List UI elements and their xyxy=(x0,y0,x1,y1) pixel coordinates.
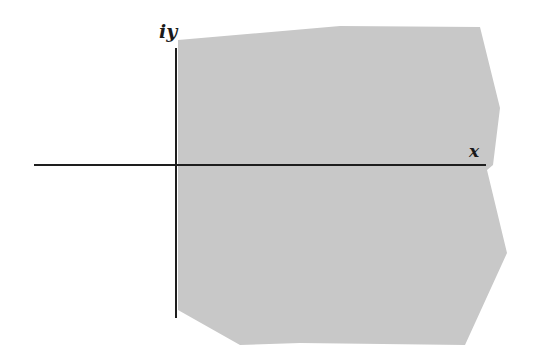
complex-plane-diagram xyxy=(0,0,533,361)
x-axis-label: x xyxy=(469,141,479,161)
shaded-region xyxy=(178,26,507,345)
y-axis-label: iy xyxy=(159,20,177,42)
